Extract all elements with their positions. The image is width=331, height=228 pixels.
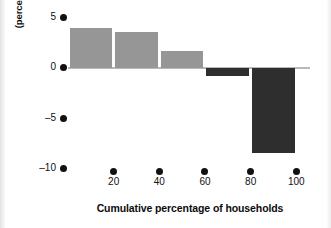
y-tick-dot-–5: [60, 115, 67, 122]
page-edge-right: [327, 0, 331, 228]
plot-area: [68, 12, 310, 174]
page-edge-left: [0, 0, 5, 228]
bar-60: [161, 51, 204, 67]
y-tick-label-0: 0: [26, 61, 56, 72]
bar-40: [115, 32, 158, 67]
x-tick-label-100: 100: [279, 176, 313, 187]
x-tick-label-20: 20: [97, 176, 131, 187]
y-tick-dot-5: [60, 14, 67, 21]
y-tick-dot-0: [60, 64, 67, 71]
x-tick-label-40: 40: [142, 176, 176, 187]
x-tick-dot-80: [247, 168, 254, 175]
x-axis-title: Cumulative percentage of households: [60, 202, 320, 214]
y-tick-label-5: 5: [26, 11, 56, 22]
chart-figure: Redistribution (percentage of total inco…: [0, 0, 331, 228]
y-axis-title-line2: (percentage of total income): [13, 0, 25, 28]
y-tick-dot-–10: [60, 165, 67, 172]
bar-80: [206, 68, 249, 76]
y-tick-label-–5: –5: [26, 112, 56, 123]
x-tick-label-60: 60: [188, 176, 222, 187]
x-tick-dot-40: [156, 168, 163, 175]
bar-100: [252, 68, 295, 153]
bar-20: [70, 28, 113, 67]
x-tick-label-80: 80: [234, 176, 268, 187]
x-tick-dot-20: [110, 168, 117, 175]
x-tick-dot-100: [293, 168, 300, 175]
y-tick-label-–10: –10: [26, 162, 56, 173]
